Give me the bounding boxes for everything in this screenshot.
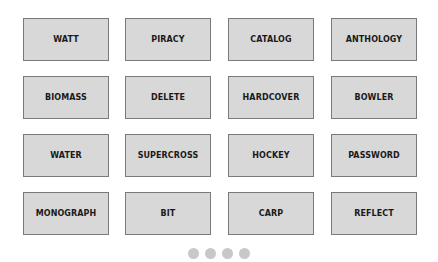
tile-delete[interactable]: DELETE <box>125 76 211 119</box>
page-dot-4[interactable] <box>239 248 250 259</box>
tile-carp[interactable]: CARP <box>228 192 314 235</box>
tile-bit[interactable]: BIT <box>125 192 211 235</box>
tile-password[interactable]: PASSWORD <box>331 134 417 177</box>
word-tile-grid: WATT PIRACY CATALOG ANTHOLOGY BIOMASS DE… <box>0 0 438 262</box>
page-dot-3[interactable] <box>222 248 233 259</box>
tile-supercross[interactable]: SUPERCROSS <box>125 134 211 177</box>
tile-catalog[interactable]: CATALOG <box>228 18 314 61</box>
tile-watt[interactable]: WATT <box>23 18 109 61</box>
tile-hockey[interactable]: HOCKEY <box>228 134 314 177</box>
tile-biomass[interactable]: BIOMASS <box>23 76 109 119</box>
pagination-dots <box>188 248 250 259</box>
page-dot-2[interactable] <box>205 248 216 259</box>
tile-hardcover[interactable]: HARDCOVER <box>228 76 314 119</box>
page-dot-1[interactable] <box>188 248 199 259</box>
tile-piracy[interactable]: PIRACY <box>125 18 211 61</box>
tile-water[interactable]: WATER <box>23 134 109 177</box>
tile-monograph[interactable]: MONOGRAPH <box>23 192 109 235</box>
tile-reflect[interactable]: REFLECT <box>331 192 417 235</box>
tile-anthology[interactable]: ANTHOLOGY <box>331 18 417 61</box>
tile-bowler[interactable]: BOWLER <box>331 76 417 119</box>
